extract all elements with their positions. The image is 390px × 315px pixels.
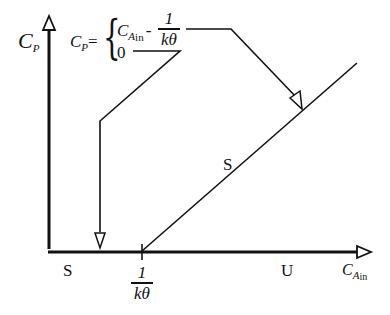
pointer-case2-arrowhead: [95, 233, 105, 248]
case1-symbol: C: [117, 21, 128, 40]
label-stable-lower-left: S: [63, 262, 72, 279]
equation-lhs-symbol: C: [70, 32, 81, 51]
equation-equals: =: [88, 32, 98, 51]
pointer-case1: [186, 29, 297, 98]
stable-branch-line: [142, 63, 357, 251]
case1-fraction-denominator: kθ: [158, 31, 180, 48]
x-axis-symbol: C: [342, 261, 353, 278]
y-axis-label: CP: [18, 30, 39, 54]
case2-value: 0: [117, 43, 126, 62]
label-unstable-lower-right: U: [281, 262, 293, 279]
threshold-denominator: kθ: [131, 285, 153, 302]
case1-fraction: 1 kθ: [158, 10, 180, 48]
threshold-fraction: 1 kθ: [131, 264, 153, 302]
case1-minus: -: [146, 21, 152, 40]
pointer-case2: [100, 51, 180, 232]
case1-subsubscript: in: [135, 31, 144, 43]
y-axis-symbol: C: [18, 28, 33, 53]
equation-case2: 0: [117, 44, 126, 61]
diagram-canvas: [0, 0, 390, 315]
x-axis-arrowhead: [357, 246, 371, 258]
y-axis-subscript: P: [33, 42, 40, 54]
x-axis-subsubscript: in: [359, 271, 367, 282]
y-axis-arrowhead: [43, 16, 55, 30]
x-axis-label: CAin: [342, 262, 367, 282]
threshold-numerator: 1: [131, 264, 153, 281]
label-stable-diagonal: S: [223, 156, 232, 173]
equation-lhs: CP=: [70, 33, 98, 53]
equation-case1: CAin-: [117, 22, 151, 43]
case1-fraction-numerator: 1: [158, 10, 180, 27]
